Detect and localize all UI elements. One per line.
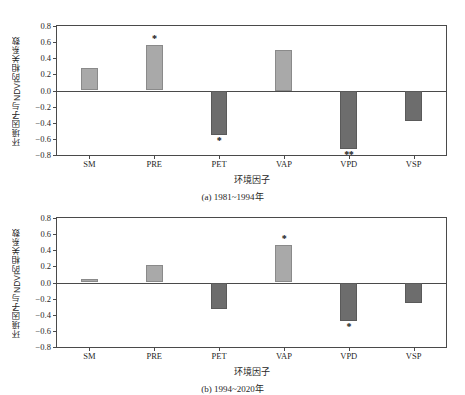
x-axis-tick-label-b-vpd: VPD	[340, 352, 357, 361]
y-axis-tick-label-b-4: 0.0	[40, 278, 51, 287]
y-axis-tick-a-1	[53, 42, 57, 43]
bar-a-vpd	[340, 91, 357, 150]
x-axis-tick-label-a-pre: PRE	[146, 160, 162, 169]
y-axis-tick-label-a-2: 0.4	[40, 54, 51, 63]
x-axis-title-a: 环境因子	[56, 173, 447, 186]
figure-root: 环境因子与NDVI的相关系数 0.80.60.40.20.0−0.2−0.4−0…	[0, 0, 465, 395]
y-axis-tick-label-b-7: −0.6	[36, 327, 51, 336]
caption-a: (a) 1981~1994年	[0, 190, 465, 203]
y-axis-tick-label-a-1: 0.6	[40, 38, 51, 47]
y-axis-tick-label-b-1: 0.6	[40, 230, 51, 239]
x-axis-tick-label-b-vsp: VSP	[406, 352, 422, 361]
y-axis-tick-a-0	[53, 26, 57, 27]
significance-marker-a-vpd: **	[344, 150, 353, 160]
zero-baseline-b	[57, 283, 446, 284]
x-axis-tick-label-a-pet: PET	[212, 160, 227, 169]
bar-a-pre	[146, 45, 163, 91]
x-axis-tick-label-b-pet: PET	[212, 352, 227, 361]
x-axis-tick-label-a-vsp: VSP	[406, 160, 422, 169]
y-axis-tick-label-a-4: 0.0	[40, 86, 51, 95]
x-axis-tick-label-b-sm: SM	[83, 352, 95, 361]
bar-b-vpd	[340, 283, 357, 322]
y-axis-tick-label-a-8: −0.8	[36, 151, 51, 160]
significance-marker-a-pet: *	[217, 136, 222, 146]
bar-a-sm	[81, 68, 98, 91]
y-axis-tick-a-7	[53, 139, 57, 140]
y-axis-tick-a-6	[53, 123, 57, 124]
y-axis-tick-a-4	[53, 91, 57, 92]
chart-panel-b: 环境因子与NDVI的相关系数 0.80.60.40.20.0−0.2−0.4−0…	[0, 205, 465, 395]
bar-b-sm	[81, 279, 98, 282]
plot-frame-a: 0.80.60.40.20.0−0.2−0.4−0.6−0.8SMPRE*PET…	[56, 25, 447, 156]
y-axis-tick-b-7	[53, 331, 57, 332]
x-axis-tick-label-b-pre: PRE	[146, 352, 162, 361]
y-axis-tick-b-1	[53, 234, 57, 235]
y-axis-tick-label-b-8: −0.8	[36, 343, 51, 352]
faint-top-text-strip	[0, 0, 465, 10]
y-axis-tick-label-a-5: −0.2	[36, 102, 51, 111]
y-axis-tick-label-b-6: −0.4	[36, 311, 51, 320]
y-axis-tick-b-6	[53, 315, 57, 316]
y-axis-tick-label-a-0: 0.8	[40, 22, 51, 31]
y-axis-title-a: 环境因子与NDVI的相关系数	[12, 24, 30, 157]
y-axis-tick-label-a-6: −0.4	[36, 119, 51, 128]
y-axis-tick-label-a-7: −0.6	[36, 135, 51, 144]
bar-b-pre	[146, 265, 163, 283]
y-axis-tick-a-8	[53, 155, 57, 156]
x-axis-tick-label-b-vap: VAP	[276, 352, 292, 361]
x-axis-tick-label-a-sm: SM	[83, 160, 95, 169]
chart-panel-a: 环境因子与NDVI的相关系数 0.80.60.40.20.0−0.2−0.4−0…	[0, 10, 465, 205]
y-axis-tick-label-b-5: −0.2	[36, 294, 51, 303]
plot-area-b: 0.80.60.40.20.0−0.2−0.4−0.6−0.8SMPREPETV…	[56, 217, 447, 348]
y-axis-tick-a-5	[53, 107, 57, 108]
bar-a-vsp	[405, 91, 422, 122]
bar-a-pet	[211, 91, 228, 135]
bar-a-vap	[275, 50, 292, 90]
caption-b: (b) 1994~2020年	[0, 382, 465, 395]
y-axis-tick-a-2	[53, 58, 57, 59]
significance-marker-b-vap: *	[282, 234, 287, 244]
y-axis-tick-label-a-3: 0.2	[40, 70, 51, 79]
bar-b-vap	[275, 245, 292, 283]
bar-b-pet	[211, 283, 228, 310]
y-axis-title-b: 环境因子与NDVI的相关系数	[12, 216, 30, 349]
y-axis-tick-label-b-3: 0.2	[40, 262, 51, 271]
x-axis-title-b: 环境因子	[56, 365, 447, 378]
x-axis-tick-label-a-vap: VAP	[276, 160, 292, 169]
y-axis-tick-b-5	[53, 299, 57, 300]
x-axis-tick-label-a-vpd: VPD	[340, 160, 357, 169]
y-axis-tick-a-3	[53, 74, 57, 75]
plot-frame-b: 0.80.60.40.20.0−0.2−0.4−0.6−0.8SMPREPETV…	[56, 217, 447, 348]
significance-marker-b-vpd: *	[347, 322, 352, 332]
y-axis-tick-b-4	[53, 283, 57, 284]
y-axis-tick-b-3	[53, 266, 57, 267]
significance-marker-a-pre: *	[152, 34, 157, 44]
bar-b-vsp	[405, 283, 422, 304]
zero-baseline-a	[57, 91, 446, 92]
y-axis-tick-b-2	[53, 250, 57, 251]
y-axis-tick-b-0	[53, 218, 57, 219]
y-axis-tick-label-b-0: 0.8	[40, 214, 51, 223]
plot-area-a: 0.80.60.40.20.0−0.2−0.4−0.6−0.8SMPRE*PET…	[56, 25, 447, 156]
y-axis-tick-label-b-2: 0.4	[40, 246, 51, 255]
y-axis-tick-b-8	[53, 347, 57, 348]
